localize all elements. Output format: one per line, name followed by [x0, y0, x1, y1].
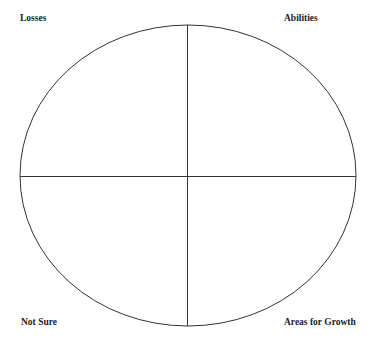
quadrant-diagram	[0, 0, 378, 341]
quadrant-label-abilities: Abilities	[284, 13, 318, 23]
quadrant-label-areas-for-growth: Areas for Growth	[284, 317, 356, 327]
quadrant-label-not-sure: Not Sure	[21, 317, 57, 327]
quadrant-label-losses: Losses	[20, 13, 46, 23]
